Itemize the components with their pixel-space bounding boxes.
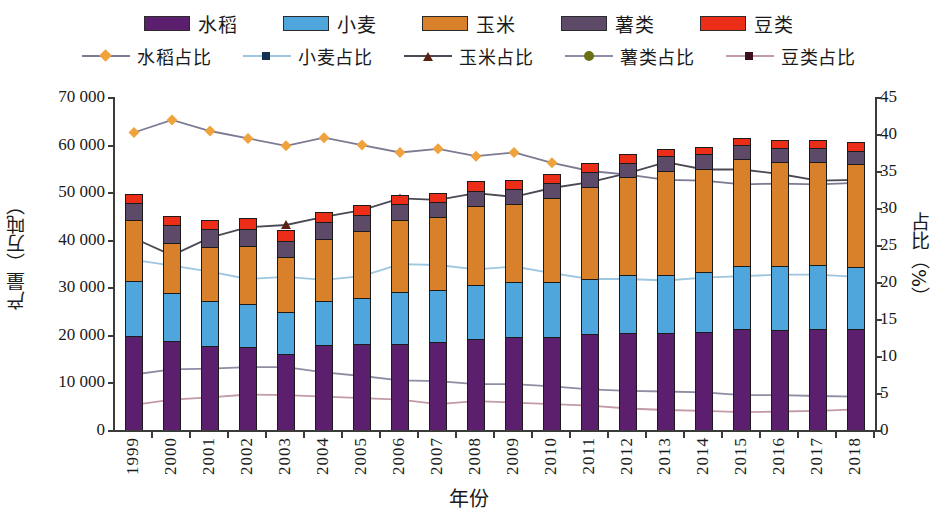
bar-segment-小麦 [125,281,143,335]
bar-segment-薯类 [733,145,751,159]
bar-stack[interactable] [695,147,713,430]
x-tick-label: 2010 [541,437,561,475]
legend-item-line-2[interactable]: 玉米占比 [404,43,533,69]
x-tick-label: 2015 [731,437,751,475]
bar-stack[interactable] [505,180,523,430]
bar-segment-豆类 [505,180,523,189]
legend-label: 薯类占比 [620,43,694,69]
y-tick-left: 60 000 [58,135,105,155]
x-tick-label: 2005 [351,437,371,475]
legend-item-bar-3[interactable]: 薯类 [561,10,654,37]
legend-label: 水稻 [198,10,237,37]
bar-segment-薯类 [695,154,713,169]
legend-item-bar-2[interactable]: 玉米 [422,10,515,37]
legend-line-sample-icon [565,49,613,63]
legend-item-line-3[interactable]: 薯类占比 [565,43,694,69]
bar-stack[interactable] [657,149,675,430]
y-tick-mark-right [875,208,882,210]
legend-label: 豆类占比 [781,43,855,69]
bar-stack[interactable] [277,230,295,430]
y-tick-mark-left [108,430,115,432]
x-tick-label: 2006 [389,437,409,475]
bar-segment-玉米 [315,239,333,301]
bar-segment-豆类 [771,140,789,148]
y-tick-right: 45 [880,87,897,107]
y-tick-left: 10 000 [58,372,105,392]
bar-stack[interactable] [619,154,637,430]
bar-segment-小麦 [239,304,257,347]
bar-segment-水稻 [429,342,447,430]
bar-segment-豆类 [467,181,485,191]
x-tick-label: 2002 [237,437,257,475]
bar-segment-薯类 [201,229,219,246]
bar-segment-薯类 [809,148,827,162]
marker-水稻占比 [243,133,254,144]
bar-stack[interactable] [353,205,371,430]
x-tick-label: 2017 [807,437,827,475]
bar-segment-水稻 [353,344,371,430]
bar-stack[interactable] [201,220,219,430]
x-tick-label: 1999 [123,437,143,475]
bar-stack[interactable] [239,218,257,430]
bar-segment-薯类 [619,163,637,178]
marker-水稻占比 [433,143,444,154]
bar-stack[interactable] [429,193,447,430]
legend-label: 玉米 [476,10,515,37]
bar-segment-豆类 [847,142,865,150]
bar-segment-小麦 [695,272,713,332]
bar-segment-玉米 [581,187,599,279]
bar-segment-水稻 [657,333,675,430]
bar-segment-玉米 [543,198,561,282]
bar-segment-水稻 [163,341,181,430]
bar-segment-小麦 [809,265,827,329]
bar-segment-玉米 [505,204,523,282]
bar-segment-水稻 [771,330,789,430]
legend-item-line-4[interactable]: 豆类占比 [726,43,855,69]
bar-segment-玉米 [847,164,865,266]
legend-swatch-icon [422,16,468,31]
legend-item-bar-0[interactable]: 水稻 [144,10,237,37]
bar-segment-玉米 [163,243,181,293]
legend-item-line-1[interactable]: 小麦占比 [243,43,372,69]
bar-segment-玉米 [809,162,827,265]
bar-segment-豆类 [163,216,181,226]
bar-stack[interactable] [581,163,599,430]
bar-stack[interactable] [125,194,143,430]
y-tick-left: 40 000 [58,230,105,250]
x-tick-label: 2016 [769,437,789,475]
bar-segment-豆类 [391,195,409,204]
bar-stack[interactable] [809,140,827,430]
bar-segment-豆类 [201,220,219,230]
bar-segment-小麦 [505,282,523,337]
bar-segment-豆类 [125,194,143,203]
bar-stack[interactable] [163,216,181,430]
bar-segment-薯类 [847,151,865,165]
y-axis-right-title: 占比（%） [906,212,933,306]
bar-segment-玉米 [429,217,447,289]
bar-stack[interactable] [771,140,789,430]
legend-item-bar-4[interactable]: 豆类 [700,10,793,37]
x-tick-label: 2014 [693,437,713,475]
legend-item-bar-1[interactable]: 小麦 [283,10,376,37]
bar-stack[interactable] [847,142,865,430]
y-axis-left-title: 产量（万吨） [2,196,29,310]
x-tick-label: 2004 [313,437,333,475]
x-axis-title: 年份 [0,483,937,512]
bar-segment-小麦 [657,275,675,333]
marker-水稻占比 [471,151,482,162]
plot-area [113,97,877,432]
bar-stack[interactable] [543,174,561,430]
bar-segment-水稻 [277,354,295,430]
bar-stack[interactable] [467,181,485,430]
bar-stack[interactable] [733,138,751,430]
legend-item-line-0[interactable]: 水稻占比 [82,43,211,69]
y-tick-left: 50 000 [58,182,105,202]
bar-stack[interactable] [315,212,333,430]
y-tick-right: 20 [880,272,897,292]
y-tick-right: 25 [880,235,897,255]
bar-segment-玉米 [391,220,409,292]
bar-segment-水稻 [543,337,561,430]
marker-水稻占比 [167,114,178,125]
bar-stack[interactable] [391,195,409,430]
bar-segment-水稻 [125,336,143,430]
